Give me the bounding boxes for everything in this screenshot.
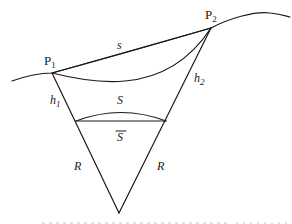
label-R-left: R xyxy=(73,159,82,173)
label-chord-S-bar: S xyxy=(117,130,123,144)
arc-S xyxy=(76,113,166,122)
label-h1: h1 xyxy=(50,93,61,109)
label-s: s xyxy=(117,38,122,52)
label-arc-S: S xyxy=(117,93,123,107)
curved-path-line xyxy=(52,28,211,82)
geodetic-diagram: P1 P2 s h1 h2 S S R R xyxy=(0,0,292,224)
label-R-right: R xyxy=(156,159,165,173)
chord-s-line xyxy=(52,28,211,73)
radius-left-line xyxy=(52,73,119,213)
label-p2: P2 xyxy=(205,7,217,24)
terrain-curve xyxy=(12,13,290,81)
label-p1: P1 xyxy=(44,53,56,70)
label-h2: h2 xyxy=(194,71,205,87)
